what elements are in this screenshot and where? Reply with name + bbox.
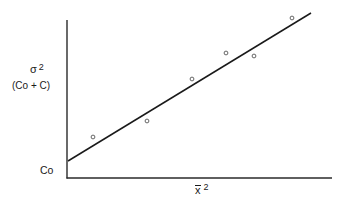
data-point (190, 77, 194, 81)
data-points (91, 16, 294, 139)
data-point (252, 54, 256, 58)
data-point (224, 51, 228, 55)
y-intercept-label: Co (40, 164, 53, 176)
y-axis-label-symbol: σ (30, 63, 37, 75)
y-axis-label-exponent: 2 (39, 62, 44, 72)
y-axis-label: σ2 (30, 63, 44, 75)
x-axis-label-base: x (195, 185, 201, 195)
y-axis-label-sub: (Co + C) (12, 80, 50, 91)
chart-canvas (0, 0, 342, 210)
data-point (290, 16, 294, 20)
data-point (145, 119, 149, 123)
x-axis-label-exponent: 2 (204, 182, 209, 192)
x-axis-label: x2 (195, 184, 209, 196)
regression-line (68, 13, 311, 161)
data-point (91, 135, 95, 139)
